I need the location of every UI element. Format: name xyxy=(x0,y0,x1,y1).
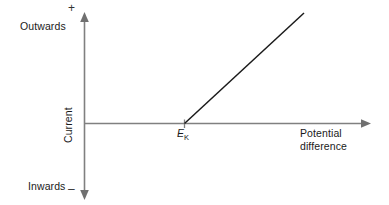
x-axis-title-potential-difference: Potentialdifference xyxy=(300,127,347,153)
current-axis-down-arrowhead xyxy=(80,190,89,200)
current-axis-up-arrowhead xyxy=(80,12,89,22)
negative-sign-label: – xyxy=(68,183,75,195)
x-axis-title-line2: difference xyxy=(300,140,347,153)
y-axis-title-current-text: Current xyxy=(62,95,75,143)
current-voltage-plot: Outwards Inwards Current + – EK Potentia… xyxy=(0,0,389,205)
data-line-rising xyxy=(185,13,305,124)
axis-label-inwards: Inwards xyxy=(28,180,65,193)
reversal-potential-label: EK xyxy=(177,127,189,145)
potential-axis-right-arrowhead xyxy=(361,119,371,128)
axis-label-outwards: Outwards xyxy=(20,20,66,33)
x-axis-title-line1: Potential xyxy=(300,127,347,140)
reversal-potential-subscript: K xyxy=(184,133,189,142)
positive-sign-label: + xyxy=(68,2,75,14)
